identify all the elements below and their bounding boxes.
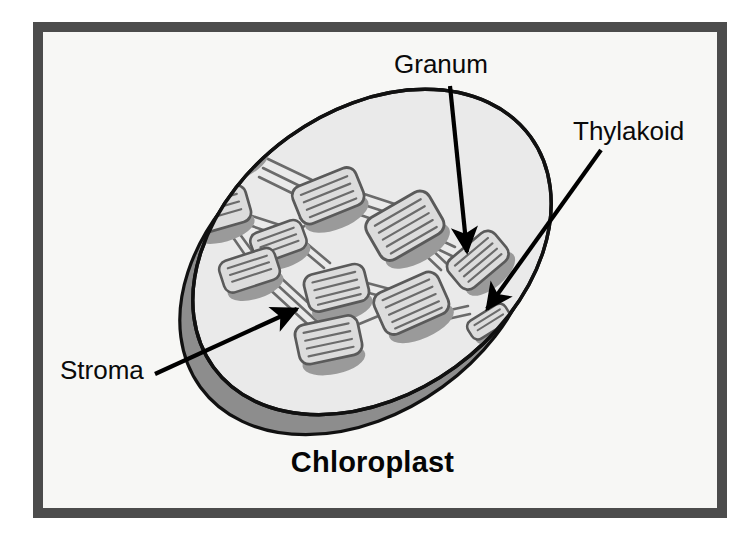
diagram-canvas: Granum Thylakoid Stroma Chloroplast [0,0,745,540]
label-granum: Granum [394,50,488,78]
label-thylakoid: Thylakoid [573,117,684,145]
label-stroma: Stroma [60,356,144,384]
figure-caption: Chloroplast [0,446,745,479]
